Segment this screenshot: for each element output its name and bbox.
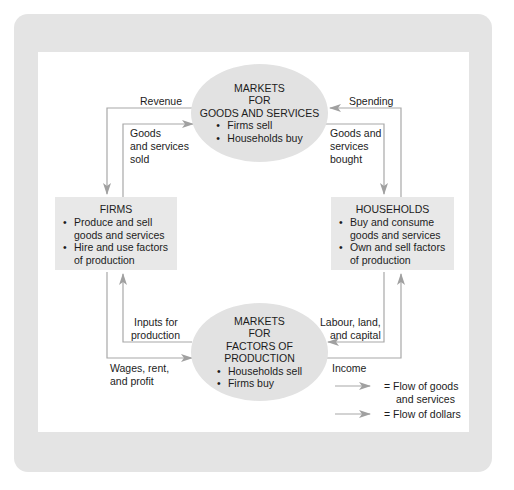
legend-label: = Flow of dollars [384,408,461,421]
legend-label: = Flow of goods [384,380,458,393]
label-line: production [131,329,180,342]
label-line: bought [330,153,381,166]
goods-sold-label: Goods and services sold [130,127,189,165]
bullet-item: Produce and sell goods and services [63,216,169,242]
revenue-label: Revenue [140,95,182,108]
node-title: GOODS AND SERVICES [200,107,319,120]
income-label: Income [332,362,366,375]
label-line: and services [130,140,189,153]
label-line: Inputs for [131,316,180,329]
bullet-item: Hire and use factors of production [63,241,169,267]
label-line: and profit [110,375,169,388]
label-line: sold [130,153,189,166]
bullet-item: Households sell [217,365,302,378]
label-line: and capital [320,329,381,342]
legend-label: and services [384,393,458,406]
legend-goods: = Flow of goods and services [384,380,458,406]
label-line: services [330,140,381,153]
label-line: Labour, land, [320,316,381,329]
label-line: Goods [130,127,189,140]
firms-node: FIRMS Produce and sell goods and service… [55,197,177,270]
households-node: HOUSEHOLDS Buy and consume goods and ser… [331,197,454,270]
markets-factors-node: MARKETS FOR FACTORS OF PRODUCTION Househ… [191,303,328,401]
node-title: FOR [248,94,270,107]
bullet-item: Buy and consume goods and services [339,216,446,242]
wages-label: Wages, rent, and profit [110,362,169,388]
node-title: MARKETS [234,82,285,95]
node-title: MARKETS [234,315,285,328]
spending-label: Spending [349,95,393,108]
wages-flow [107,272,192,358]
node-title: FACTORS OF PRODUCTION [191,340,328,365]
label-line: Goods and [330,127,381,140]
node-title: FOR [248,327,270,340]
bullet-item: Households buy [216,132,302,145]
bullet-item: Firms buy [217,377,302,390]
inputs-label: Inputs for production [131,316,180,342]
bullet-item: Firms sell [216,119,302,132]
node-title: HOUSEHOLDS [339,203,446,216]
labour-label: Labour, land, and capital [320,316,381,342]
goods-bought-label: Goods and services bought [330,127,381,165]
markets-goods-services-node: MARKETS FOR GOODS AND SERVICES Firms sel… [191,64,328,162]
bullet-item: Own and sell factors of production [339,241,446,267]
node-title: FIRMS [63,203,169,216]
label-line: Wages, rent, [110,362,169,375]
legend-dollars: = Flow of dollars [384,408,461,421]
